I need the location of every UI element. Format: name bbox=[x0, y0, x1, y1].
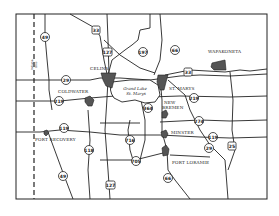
town-fort-loramie: FORT LORAMIE bbox=[162, 145, 209, 165]
route-66-north-shield: 66 bbox=[171, 46, 180, 55]
route-705-shield: 705 bbox=[131, 157, 140, 166]
svg-text:BREMEN: BREMEN bbox=[162, 105, 184, 110]
svg-text:66: 66 bbox=[165, 176, 171, 181]
svg-text:716: 716 bbox=[125, 138, 134, 143]
town-st-marys: ST. MARYS bbox=[157, 75, 194, 91]
svg-text:29: 29 bbox=[206, 146, 212, 151]
route-49-north-shield: 49 bbox=[41, 33, 50, 42]
svg-text:ST. MARYS: ST. MARYS bbox=[169, 86, 194, 91]
svg-text:119: 119 bbox=[208, 135, 217, 140]
svg-text:MINSTER: MINSTER bbox=[171, 130, 195, 135]
svg-text:197: 197 bbox=[138, 50, 147, 55]
route-33-east-shield: 33 bbox=[184, 68, 192, 76]
svg-text:33: 33 bbox=[93, 28, 99, 33]
svg-text:127: 127 bbox=[106, 183, 115, 188]
route-66-south-shield: 66 bbox=[164, 174, 173, 183]
route-219-west-shield: 219 bbox=[54, 97, 63, 106]
svg-text:FORT LORAMIE: FORT LORAMIE bbox=[172, 160, 209, 165]
map-frame bbox=[16, 14, 267, 199]
svg-text:127: 127 bbox=[103, 50, 112, 55]
town-new-bremen: NEW BREMEN bbox=[162, 100, 184, 118]
svg-text:66: 66 bbox=[172, 48, 178, 53]
svg-text:FORT RECOVERY: FORT RECOVERY bbox=[35, 137, 76, 142]
svg-text:WAPAKONETA: WAPAKONETA bbox=[208, 49, 242, 54]
svg-text:119: 119 bbox=[59, 126, 68, 131]
route-197-shield: 197 bbox=[138, 48, 147, 57]
svg-text:219: 219 bbox=[54, 99, 63, 104]
grand-lake-st-marys: Grand Lake St. Marys bbox=[110, 80, 160, 103]
route-219-east-shield: 219 bbox=[189, 94, 198, 103]
svg-text:29: 29 bbox=[63, 78, 69, 83]
svg-text:33: 33 bbox=[185, 70, 191, 75]
route-127-south-shield: 127 bbox=[106, 181, 115, 189]
route-119-east-shield: 119 bbox=[208, 133, 217, 142]
road-map: Indiana Ohio bbox=[0, 0, 279, 216]
svg-text:25: 25 bbox=[229, 144, 235, 149]
route-274-shield: 274 bbox=[194, 117, 203, 126]
svg-text:118: 118 bbox=[84, 148, 93, 153]
svg-text:364: 364 bbox=[143, 106, 152, 111]
svg-text:219: 219 bbox=[189, 96, 198, 101]
route-118-shield: 118 bbox=[84, 146, 93, 155]
svg-text:705: 705 bbox=[131, 159, 140, 164]
svg-text:CELINA: CELINA bbox=[90, 66, 109, 71]
svg-text:Ohio: Ohio bbox=[34, 61, 38, 68]
svg-text:49: 49 bbox=[42, 35, 48, 40]
town-celina: CELINA bbox=[90, 66, 116, 88]
route-25-shield: 25 bbox=[228, 142, 236, 150]
town-wapakoneta: WAPAKONETA bbox=[208, 49, 242, 70]
svg-text:St. Marys: St. Marys bbox=[126, 91, 146, 96]
svg-text:COLDWATER: COLDWATER bbox=[58, 89, 89, 94]
svg-text:274: 274 bbox=[194, 119, 203, 124]
route-49-south-shield: 49 bbox=[59, 172, 68, 181]
route-29-east-shield: 29 bbox=[205, 144, 214, 153]
state-line-label: Indiana Ohio bbox=[30, 59, 38, 70]
route-364-shield: 364 bbox=[143, 104, 152, 113]
route-119-west-shield: 119 bbox=[59, 124, 68, 133]
route-127-north-shield: 127 bbox=[103, 48, 112, 56]
route-33-north-shield: 33 bbox=[92, 26, 100, 34]
route-29-west-shield: 29 bbox=[62, 76, 71, 85]
svg-text:49: 49 bbox=[60, 174, 66, 179]
roads bbox=[16, 14, 267, 199]
route-716-shield: 716 bbox=[125, 136, 134, 145]
